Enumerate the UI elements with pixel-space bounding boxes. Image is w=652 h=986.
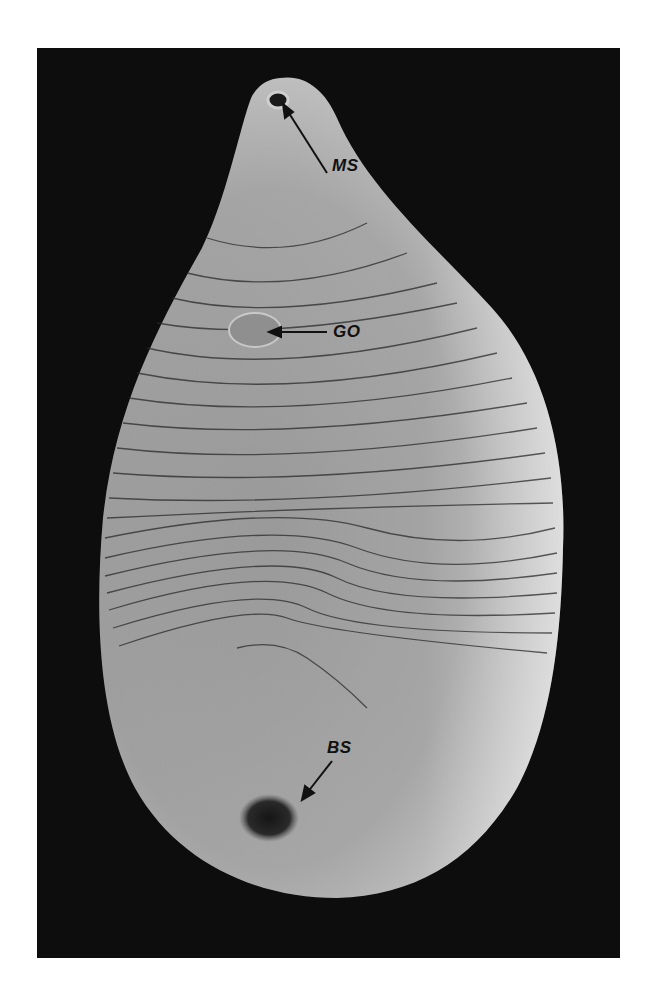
ventral-sucker <box>239 794 299 842</box>
specimen-illustration <box>37 48 620 958</box>
label-ms: MS <box>332 156 359 176</box>
micrograph-frame: MS GO BS <box>37 48 620 958</box>
label-go: GO <box>333 322 360 342</box>
label-bs: BS <box>327 738 352 758</box>
